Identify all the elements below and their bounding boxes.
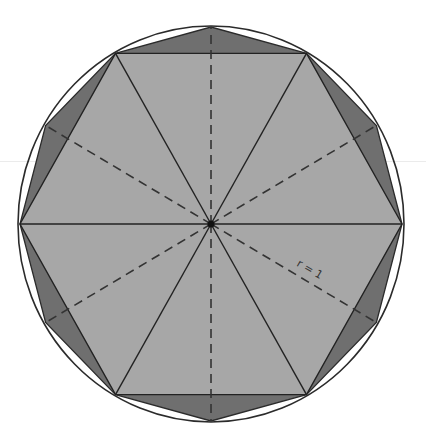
center-point xyxy=(208,221,215,228)
hexagon-dodecagon-diagram: r = 1 xyxy=(0,0,426,444)
geometry-group xyxy=(18,26,404,422)
